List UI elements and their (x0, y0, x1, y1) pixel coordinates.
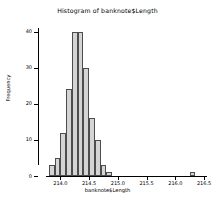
histogram-bars (0, 0, 215, 210)
histogram-bar (106, 172, 112, 176)
histogram-bar (190, 172, 196, 176)
histogram-plot: Histogram of banknote$Length Frequency b… (0, 0, 215, 210)
